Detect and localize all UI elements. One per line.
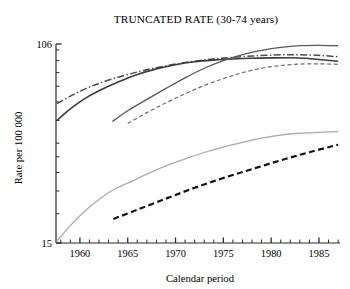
x-tick-label: 1965 [117,248,138,259]
x-tick-label: 1975 [213,248,234,259]
series-line-series-3-solid-dark-mid [112,45,338,121]
y-tick-label: 106 [36,39,52,50]
x-axis-label: Calendar period [166,273,235,284]
y-axis-ticks [56,44,62,243]
y-tick-labels: 10615 [36,39,52,249]
series-line-series-6-dashed-bold-black [113,145,338,219]
data-series-group [57,45,338,241]
x-tick-label: 1980 [261,248,282,259]
chart-canvas: TRUNCATED RATE (30-74 years) Rate per 10… [0,0,350,289]
series-line-series-2-solid-dark-early [57,58,338,121]
x-tick-labels: 196019651970197519801985 [70,248,330,259]
truncated-rate-chart: TRUNCATED RATE (30-74 years) Rate per 10… [0,0,350,289]
x-axis-ticks [61,238,338,244]
x-tick-label: 1985 [309,248,330,259]
chart-title: TRUNCATED RATE (30-74 years) [114,13,279,26]
axis-lines [56,44,340,243]
y-axis-label: Rate per 100 000 [13,112,24,185]
x-tick-label: 1970 [165,248,186,259]
series-line-series-4-dashed-thin [128,64,338,124]
x-tick-label: 1960 [70,248,91,259]
y-tick-label: 15 [42,238,52,249]
